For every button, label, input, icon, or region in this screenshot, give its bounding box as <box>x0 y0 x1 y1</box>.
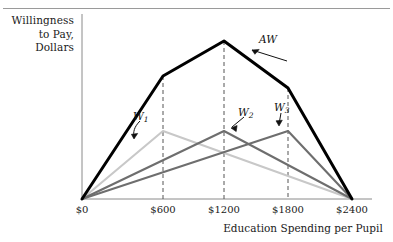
series-label-w1-sub: 1 <box>144 115 149 124</box>
top-divider-rule <box>3 8 390 9</box>
x-tick-label-0: $0 <box>52 203 112 216</box>
x-axis-title: Education Spending per Pupil <box>218 222 388 235</box>
figure-container: Willingness to Pay, Dollars <box>0 0 393 242</box>
series-label-aw: AW <box>259 33 277 45</box>
x-tick-label-600: $600 <box>133 203 193 216</box>
x-tick-label-1200: $1200 <box>194 203 254 216</box>
y-axis-title: Willingness to Pay, Dollars <box>8 14 74 55</box>
series-label-w3-base: W <box>274 101 285 113</box>
series-line-w1 <box>82 131 352 199</box>
series-label-w2: W2 <box>238 106 254 120</box>
series-label-w2-base: W <box>238 106 249 118</box>
annotation-arrow-aw <box>252 49 287 61</box>
series-label-w1: W1 <box>133 110 149 124</box>
series-label-w2-sub: 2 <box>249 111 254 120</box>
series-label-w3: W3 <box>274 101 290 115</box>
series-label-w3-sub: 3 <box>285 106 290 115</box>
x-tick-label-1800: $1800 <box>258 203 318 216</box>
series-label-w1-base: W <box>133 110 144 122</box>
series-line-aw <box>82 41 352 199</box>
x-tick-label-2400: $2400 <box>322 203 382 216</box>
